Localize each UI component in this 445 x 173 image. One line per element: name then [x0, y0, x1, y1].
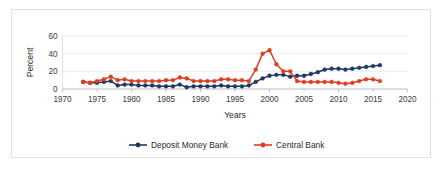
data-point — [233, 78, 237, 82]
data-point — [240, 84, 244, 88]
data-point — [344, 68, 348, 72]
data-point — [123, 83, 127, 87]
data-point — [95, 79, 99, 83]
data-point — [150, 84, 154, 88]
legend-marker-1 — [261, 143, 266, 148]
data-point — [240, 78, 244, 82]
data-point — [192, 79, 196, 83]
legend-marker-0 — [136, 143, 141, 148]
data-point — [81, 80, 85, 84]
data-point — [309, 72, 313, 76]
data-point — [316, 80, 320, 84]
y-tick-label: 60 — [48, 32, 58, 41]
data-point — [350, 67, 354, 71]
data-point — [171, 84, 175, 88]
data-point — [330, 80, 334, 84]
x-tick-label: 2020 — [398, 95, 417, 104]
x-tick-label: 2005 — [295, 95, 314, 104]
x-tick-label: 1995 — [226, 95, 245, 104]
x-tick-label: 1990 — [191, 95, 210, 104]
data-point — [268, 74, 272, 78]
x-tick-label: 2015 — [364, 95, 383, 104]
data-point — [219, 84, 223, 88]
x-tick-label: 1985 — [157, 95, 176, 104]
data-point — [157, 84, 161, 88]
data-point — [137, 84, 141, 88]
data-point — [164, 78, 168, 82]
data-point — [130, 79, 134, 83]
data-point — [247, 84, 251, 88]
data-point — [199, 84, 203, 88]
y-axis-title: Percent — [25, 47, 35, 77]
y-tick-label: 40 — [48, 50, 58, 59]
data-point — [178, 76, 182, 80]
data-point — [371, 64, 375, 68]
data-point — [254, 80, 258, 84]
data-point — [143, 79, 147, 83]
data-point — [281, 69, 285, 73]
data-point — [350, 81, 354, 85]
data-point — [295, 74, 299, 78]
data-point — [309, 80, 313, 84]
data-point — [226, 77, 230, 81]
y-tick-label: 20 — [48, 67, 58, 76]
data-point — [199, 79, 203, 83]
data-point — [254, 68, 258, 72]
data-point — [268, 48, 272, 52]
data-point — [302, 74, 306, 78]
data-point — [295, 79, 299, 83]
data-point — [123, 77, 127, 81]
legend-label-0: Deposit Money Bank — [151, 140, 229, 150]
series-line-central-bank — [83, 50, 380, 84]
data-point — [206, 84, 210, 88]
data-point — [261, 77, 265, 81]
data-point — [316, 70, 320, 74]
data-point — [364, 77, 368, 81]
chart-canvas: 0204060197019751980198519901995200020052… — [0, 0, 445, 173]
data-point — [206, 79, 210, 83]
data-point — [247, 79, 251, 83]
line-chart: 0204060197019751980198519901995200020052… — [0, 0, 445, 173]
data-point — [378, 63, 382, 67]
data-point — [275, 62, 279, 66]
data-point — [88, 81, 92, 85]
legend-label-1: Central Bank — [276, 140, 325, 150]
data-point — [330, 67, 334, 71]
x-tick-label: 2010 — [329, 95, 348, 104]
series-line-deposit-money-bank — [83, 65, 380, 87]
data-point — [185, 85, 189, 89]
x-axis-tick-labels: 1970197519801985199019952000200520102015… — [53, 89, 417, 104]
data-point — [116, 84, 120, 88]
data-point — [212, 79, 216, 83]
data-point — [109, 75, 113, 79]
data-point — [185, 77, 189, 81]
data-point — [261, 52, 265, 56]
data-point — [371, 77, 375, 81]
data-point — [337, 67, 341, 71]
x-tick-label: 1975 — [88, 95, 107, 104]
data-point — [364, 65, 368, 69]
data-point — [137, 79, 141, 83]
data-point — [219, 77, 223, 81]
data-point — [323, 68, 327, 72]
data-point — [192, 84, 196, 88]
series-deposit-money-bank — [81, 63, 382, 89]
y-tick-label: 0 — [53, 85, 58, 94]
data-point — [143, 84, 147, 88]
data-point — [288, 69, 292, 73]
data-point — [357, 66, 361, 70]
data-point — [130, 83, 134, 87]
data-point — [164, 84, 168, 88]
data-point — [357, 79, 361, 83]
data-point — [233, 84, 237, 88]
data-point — [337, 81, 341, 85]
data-point — [344, 82, 348, 86]
data-point — [171, 78, 175, 82]
data-point — [323, 80, 327, 84]
data-point — [288, 75, 292, 79]
data-point — [109, 79, 113, 83]
data-point — [275, 73, 279, 77]
data-point — [157, 79, 161, 83]
data-point — [178, 83, 182, 87]
data-point — [226, 84, 230, 88]
